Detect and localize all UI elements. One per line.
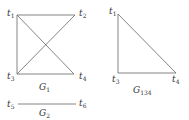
graph-diagram: t1 t2 t3 t4 G1 t5 t6 G2 t1 t3 t4 G134 xyxy=(0,0,189,120)
graph-g1: t1 t2 t3 t4 G1 xyxy=(7,8,87,93)
node-label-t3: t3 xyxy=(7,71,15,82)
node-label-t3: t3 xyxy=(112,74,120,85)
node-label-t1: t1 xyxy=(109,6,116,17)
graph-name-g134: G134 xyxy=(133,85,152,96)
node-label-t1: t1 xyxy=(7,8,14,19)
graph-name-g1: G1 xyxy=(39,82,50,93)
edge-t1-t4 xyxy=(118,14,176,73)
graph-name-g2: G2 xyxy=(39,108,50,119)
graph-g134: t1 t3 t4 G134 xyxy=(109,6,180,96)
node-label-t2: t2 xyxy=(79,8,87,19)
graph-g2: t5 t6 G2 xyxy=(7,98,87,119)
node-label-t4: t4 xyxy=(79,71,87,82)
node-label-t5: t5 xyxy=(7,99,15,110)
node-label-t6: t6 xyxy=(79,98,87,109)
node-label-t4: t4 xyxy=(172,74,180,85)
